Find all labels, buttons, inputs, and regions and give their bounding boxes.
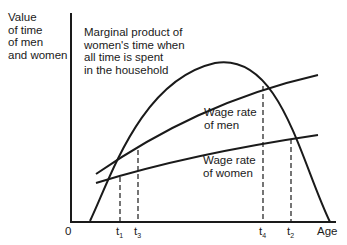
tick-sub: 1	[119, 232, 123, 239]
wage-women-curve	[96, 135, 318, 183]
tick-t3: t3	[134, 225, 141, 239]
origin-label: 0	[65, 225, 71, 237]
tick-sub: 2	[290, 232, 294, 239]
tick-sub: 4	[262, 232, 266, 239]
tick-t1: t1	[116, 225, 123, 239]
tick-sub: 3	[137, 232, 141, 239]
tick-t4: t4	[259, 225, 266, 239]
wage-men-curve	[96, 75, 318, 174]
marginal-product-curve	[90, 62, 330, 222]
diagram-canvas	[0, 0, 347, 245]
x-axis-label: Age	[317, 225, 337, 237]
tick-t2: t2	[287, 225, 294, 239]
